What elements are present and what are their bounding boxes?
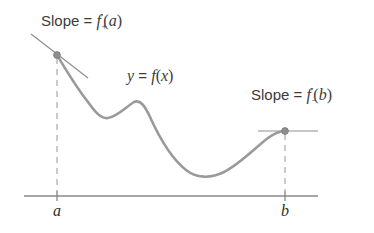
- slope-a-argument: a: [109, 12, 117, 29]
- function-label: y = f(x): [127, 68, 173, 84]
- slope-a-close-paren: ): [117, 12, 122, 29]
- slope-b-subscript: −: [311, 96, 317, 106]
- slope-b-close-paren: ): [327, 86, 332, 103]
- slope-a-equals: =: [84, 12, 93, 29]
- axis-tick-label-b: b: [281, 202, 289, 220]
- slope-b-prefix: Slope: [251, 86, 289, 103]
- slope-b-equals: =: [294, 86, 303, 103]
- function-label-equals: =: [138, 67, 147, 84]
- axis-tick-label-a: a: [53, 202, 61, 220]
- point-marker-b: [282, 128, 289, 135]
- slope-a-subscript: +: [101, 22, 107, 32]
- slope-b-fterm: f′−: [306, 87, 313, 103]
- calculus-figure: Slope = f′+(a) Slope = f′−(b) y = f(x) a…: [0, 0, 374, 233]
- slope-a-prefix: Slope: [41, 12, 79, 29]
- point-marker-a: [54, 52, 61, 59]
- slope-a-fterm: f′+: [96, 13, 103, 29]
- slope-b-argument: b: [319, 86, 327, 103]
- slope-label-b: Slope = f′−(b): [251, 87, 332, 103]
- figure-canvas: [0, 0, 374, 233]
- slope-label-a: Slope = f′+(a): [41, 13, 122, 29]
- function-label-close-paren: ): [168, 67, 173, 84]
